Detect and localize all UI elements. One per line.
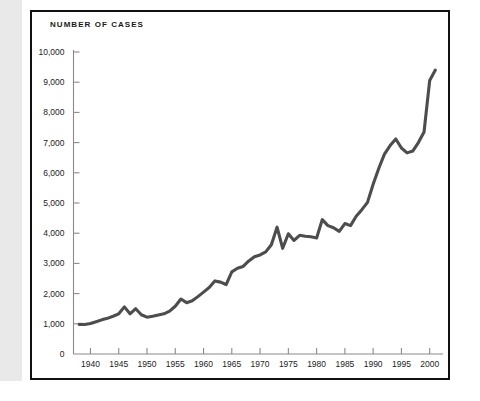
- x-axis-tick-label: 1945: [109, 359, 128, 369]
- y-axis-tick-label: 8,000: [43, 107, 65, 117]
- y-axis-tick-label: 1,000: [43, 319, 65, 329]
- x-axis-tick-label: 1960: [194, 359, 213, 369]
- x-axis-tick-label: 1995: [392, 359, 411, 369]
- data-series-line: [79, 70, 435, 324]
- x-axis-tick-label: 1975: [279, 359, 298, 369]
- y-axis-tick-label: 5,000: [43, 198, 65, 208]
- x-axis-tick-label: 1950: [138, 359, 157, 369]
- y-axis-tick-label: 3,000: [43, 258, 65, 268]
- x-axis-tick-label: 1980: [307, 359, 326, 369]
- x-axis-tick-label: 1970: [251, 359, 270, 369]
- y-axis-tick-label: 4,000: [43, 228, 65, 238]
- y-axis-tick-label: 6,000: [43, 168, 65, 178]
- x-axis-tick-label: 1955: [166, 359, 185, 369]
- figure-root: NUMBER OF CASES 01,0002,0003,0004,0005,0…: [0, 0, 480, 401]
- x-axis-tick-label: 1990: [364, 359, 383, 369]
- x-axis-tick-label: 2000: [420, 359, 439, 369]
- y-axis-tick-label: 7,000: [43, 138, 65, 148]
- x-axis-tick-label: 1940: [81, 359, 100, 369]
- x-axis-tick-label: 1965: [222, 359, 241, 369]
- x-axis-tick-group: 1940194519501955196019651970197519801985…: [81, 348, 439, 369]
- line-chart-plot: 01,0002,0003,0004,0005,0006,0007,0008,00…: [0, 0, 480, 401]
- y-axis-tick-label: 2,000: [43, 289, 65, 299]
- y-axis-tick-label: 10,000: [39, 47, 65, 57]
- y-axis-tick-label: 9,000: [43, 77, 65, 87]
- y-axis-tick-label: 0: [60, 349, 65, 359]
- x-axis-tick-label: 1985: [335, 359, 354, 369]
